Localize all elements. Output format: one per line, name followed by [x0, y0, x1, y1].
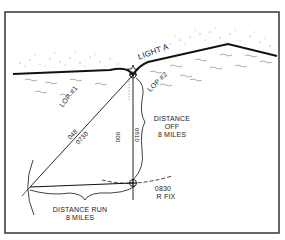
- distance-run-bracket: [30, 186, 135, 200]
- frame-border: [5, 12, 279, 233]
- lop1-extension: [22, 187, 30, 196]
- navigation-diagram: [0, 0, 285, 240]
- fix-type-label: R FIX: [154, 193, 178, 201]
- distance-off-label-3: 8 MILES: [152, 131, 192, 139]
- dashed-arc: [102, 176, 172, 183]
- distance-off-label-2: OFF: [152, 123, 192, 131]
- fix-icon: [129, 179, 137, 187]
- distance-run-label-1: DISTANCE RUN: [50, 206, 110, 214]
- distance-off-label-1: DISTANCE: [152, 115, 192, 123]
- bearing2-right: 0810: [133, 128, 141, 142]
- land-stipple: [20, 28, 271, 67]
- run-line: [30, 183, 133, 187]
- distance-run-label-2: 8 MILES: [50, 214, 110, 222]
- fix-time-label: 0830: [151, 185, 175, 193]
- bearing2-left: 000: [114, 132, 122, 143]
